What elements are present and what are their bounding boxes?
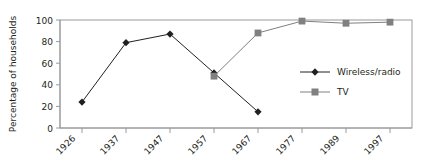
- data-point-marker-square: [299, 18, 306, 25]
- y-axis-title: Percentage of households: [8, 16, 18, 133]
- y-tick-label: 100: [36, 16, 53, 26]
- legend-marker-square-icon: [312, 89, 319, 96]
- data-point-marker-square: [211, 73, 218, 80]
- legend-label-tv: TV: [336, 87, 349, 97]
- legend-label-wireless: Wireless/radio: [337, 67, 401, 77]
- line-chart: 100 80 60 40 20 0 Percentage of househol…: [0, 0, 422, 167]
- data-point-marker-square: [255, 30, 262, 37]
- y-tick-label: 80: [42, 37, 54, 47]
- y-tick-label: 60: [42, 59, 54, 69]
- y-tick-label: 0: [47, 124, 53, 134]
- chart-figure: 100 80 60 40 20 0 Percentage of househol…: [0, 0, 422, 167]
- y-tick-label: 20: [42, 102, 54, 112]
- y-tick-label: 40: [42, 80, 54, 90]
- data-point-marker-square: [387, 19, 394, 26]
- data-point-marker-square: [343, 20, 350, 27]
